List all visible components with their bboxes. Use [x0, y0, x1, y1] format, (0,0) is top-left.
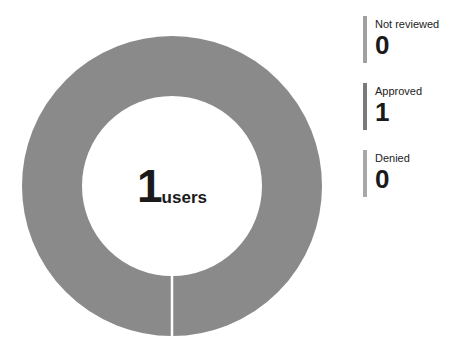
legend-label: Denied [375, 150, 439, 165]
legend-item-not-reviewed[interactable]: Not reviewed 0 [363, 16, 439, 63]
center-count: 1 [137, 166, 161, 206]
legend-value: 1 [375, 98, 439, 126]
legend-label: Approved [375, 83, 439, 98]
center-unit: users [162, 189, 207, 207]
legend-value: 0 [375, 31, 439, 59]
legend-color-bar [363, 16, 367, 63]
legend-item-denied[interactable]: Denied 0 [363, 150, 439, 197]
legend-value: 0 [375, 165, 439, 193]
legend: Not reviewed 0 Approved 1 Denied 0 [363, 16, 439, 217]
legend-label: Not reviewed [375, 16, 439, 31]
center-total: 1 users [137, 166, 207, 206]
legend-item-approved[interactable]: Approved 1 [363, 83, 439, 130]
legend-color-bar [363, 150, 367, 197]
legend-color-bar [363, 83, 367, 130]
